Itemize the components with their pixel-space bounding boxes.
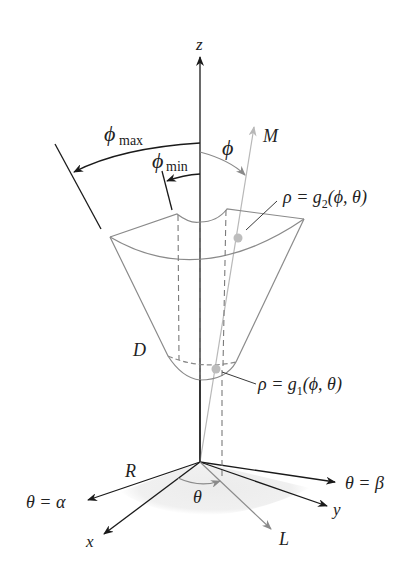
region-D-label: D bbox=[132, 340, 146, 360]
phi-label: ϕ bbox=[222, 135, 233, 160]
phi-min-boundary bbox=[162, 171, 172, 210]
R-label: R bbox=[124, 461, 136, 481]
y-axis-label: y bbox=[331, 500, 341, 519]
outer-surface-point bbox=[234, 234, 243, 243]
L-label: L bbox=[278, 529, 289, 549]
g2-label: ρ = g2(ϕ, θ) bbox=[282, 187, 367, 211]
phi-max-label: ϕ bbox=[104, 121, 115, 146]
g2-leader bbox=[246, 201, 277, 230]
M-label: M bbox=[262, 126, 279, 146]
phi-min-subscript: min bbox=[166, 159, 188, 174]
theta-alpha-label: θ = α bbox=[26, 492, 66, 512]
phi-max-subscript: max bbox=[119, 133, 143, 148]
z-axis-label: z bbox=[195, 35, 203, 54]
g1-label: ρ = g1(ϕ, θ) bbox=[257, 374, 342, 398]
phi-min-label: ϕ bbox=[152, 148, 163, 173]
g1-leader bbox=[222, 372, 256, 384]
inner-surface-point bbox=[212, 365, 221, 374]
phi-max-boundary bbox=[55, 144, 101, 229]
M-ray bbox=[200, 127, 254, 462]
theta-label: θ bbox=[193, 487, 202, 507]
theta-sector-shadow bbox=[120, 462, 310, 515]
theta-beta-label: θ = β bbox=[345, 473, 384, 493]
spherical-region-diagram: z ϕ max ϕ min ϕ M ρ = g2(ϕ, θ) D ρ = g1(… bbox=[0, 0, 418, 579]
phi-min-arc bbox=[167, 174, 200, 181]
x-axis-label: x bbox=[85, 532, 94, 551]
